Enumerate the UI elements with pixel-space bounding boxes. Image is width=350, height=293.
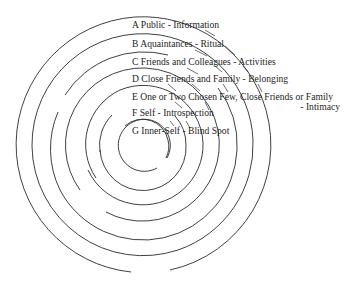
ring-e	[86, 85, 203, 204]
label-c: C Friends and Colleagues - Activities	[132, 56, 276, 67]
diagram-canvas: A Public - Information B Aquaintances - …	[0, 0, 350, 293]
label-d: D Close Friends and Family - Belonging	[132, 73, 288, 84]
label-e-line2: - Intimacy	[300, 101, 340, 112]
label-a: A Public - Information	[132, 19, 219, 30]
ring-labels: A Public - Information B Aquaintances - …	[132, 19, 340, 136]
label-b: B Aquaintances - Ritual	[132, 38, 224, 49]
label-f: F Self - Introspection	[132, 107, 214, 118]
label-g: G Inner-Self - Blind Spot	[132, 125, 230, 136]
relationship-circles-diagram: A Public - Information B Aquaintances - …	[0, 0, 350, 293]
